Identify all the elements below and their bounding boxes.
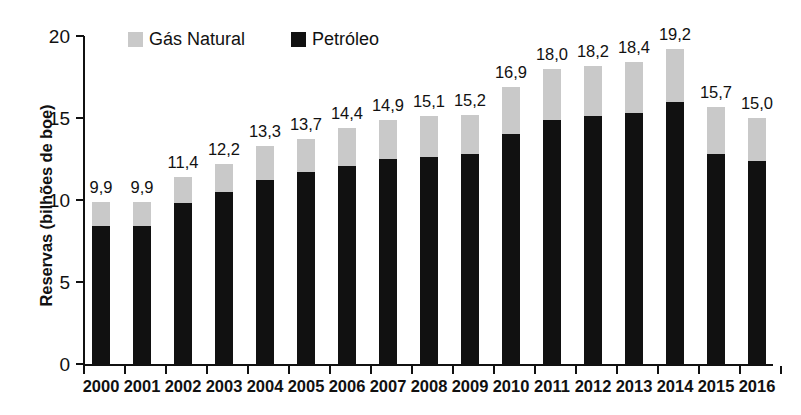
bar-segment-petroleo[interactable] [215,192,233,364]
y-tick-mark [76,35,84,37]
x-tick-mark [534,366,536,374]
bar-group[interactable]: 14,9 [379,0,397,415]
x-tick-mark [616,366,618,374]
bar-value-label: 19,2 [647,26,703,43]
bar-segment-gas-natural[interactable] [502,87,520,135]
bar-segment-petroleo[interactable] [174,203,192,364]
bar-group[interactable]: 9,9 [92,0,110,415]
x-tick-mark [124,366,126,374]
bar-group[interactable]: 14,4 [338,0,356,415]
bar-segment-petroleo[interactable] [92,226,110,364]
x-tick-mark [698,366,700,374]
x-tick-mark [452,366,454,374]
y-tick-label: 20 [30,27,70,46]
bar-group[interactable]: 13,3 [256,0,274,415]
bar-segment-petroleo[interactable] [420,157,438,364]
bar-group[interactable]: 18,2 [584,0,602,415]
bar-segment-gas-natural[interactable] [707,107,725,155]
y-tick-mark [76,199,84,201]
bar-segment-gas-natural[interactable] [584,66,602,117]
bar-segment-petroleo[interactable] [543,120,561,364]
x-tick-mark [657,366,659,374]
bar-segment-petroleo[interactable] [297,172,315,364]
bar-segment-petroleo[interactable] [584,116,602,364]
legend-label-petroleo: Petróleo [312,30,379,48]
x-tick-label: 2016 [730,378,784,395]
x-tick-mark [165,366,167,374]
legend-swatch-gas-icon [128,32,143,47]
bar-segment-gas-natural[interactable] [543,69,561,120]
bar-segment-gas-natural[interactable] [338,128,356,166]
bar-group[interactable]: 16,9 [502,0,520,415]
bar-group[interactable]: 18,4 [625,0,643,415]
x-tick-mark [206,366,208,374]
y-tick-label: 0 [30,355,70,374]
bar-segment-petroleo[interactable] [666,102,684,364]
bar-value-label: 12,2 [196,141,252,158]
bar-group[interactable]: 18,0 [543,0,561,415]
x-tick-mark [493,366,495,374]
bar-group[interactable]: 15,0 [748,0,766,415]
y-tick-label: 5 [30,273,70,292]
bar-segment-gas-natural[interactable] [174,177,192,203]
bar-segment-gas-natural[interactable] [215,164,233,192]
bar-group[interactable]: 15,2 [461,0,479,415]
bar-segment-gas-natural[interactable] [92,202,110,227]
bar-segment-gas-natural[interactable] [379,120,397,159]
x-tick-mark [575,366,577,374]
y-tick-mark [76,281,84,283]
bar-segment-petroleo[interactable] [256,180,274,364]
bar-value-label: 9,9 [114,179,170,196]
bar-value-label: 15,2 [442,92,498,109]
bar-segment-petroleo[interactable] [707,154,725,364]
bar-segment-gas-natural[interactable] [133,202,151,227]
legend-item-petroleo[interactable]: Petróleo [291,30,379,48]
bar-segment-gas-natural[interactable] [748,118,766,161]
bar-group[interactable]: 19,2 [666,0,684,415]
x-tick-mark [370,366,372,374]
legend-item-gas-natural[interactable]: Gás Natural [128,30,245,48]
bar-segment-gas-natural[interactable] [625,62,643,113]
bar-group[interactable]: 12,2 [215,0,233,415]
bar-segment-gas-natural[interactable] [256,146,274,180]
x-tick-mark [411,366,413,374]
bar-segment-petroleo[interactable] [133,226,151,364]
bar-segment-gas-natural[interactable] [461,115,479,154]
y-tick-label: 15 [30,109,70,128]
legend-swatch-oil-icon [291,32,306,47]
bar-group[interactable]: 15,7 [707,0,725,415]
bar-group[interactable]: 11,4 [174,0,192,415]
x-tick-mark [739,366,741,374]
bar-segment-petroleo[interactable] [461,154,479,364]
bar-group[interactable]: 15,1 [420,0,438,415]
bar-segment-gas-natural[interactable] [666,49,684,101]
bar-segment-petroleo[interactable] [748,161,766,364]
x-tick-mark [329,366,331,374]
bar-segment-gas-natural[interactable] [420,116,438,157]
bar-segment-petroleo[interactable] [338,166,356,364]
x-tick-mark [83,366,85,374]
bar-value-label: 16,9 [483,64,539,81]
legend: Gás Natural Petróleo [128,30,379,48]
bar-segment-petroleo[interactable] [502,134,520,364]
bar-group[interactable]: 13,7 [297,0,315,415]
bar-segment-petroleo[interactable] [625,113,643,364]
y-tick-label: 10 [30,191,70,210]
legend-label-gas-natural: Gás Natural [149,30,245,48]
bar-segment-petroleo[interactable] [379,159,397,364]
y-tick-mark [76,363,84,365]
bar-value-label: 15,0 [729,95,785,112]
bar-segment-gas-natural[interactable] [297,139,315,172]
x-tick-mark [288,366,290,374]
x-tick-mark [247,366,249,374]
y-tick-mark [76,117,84,119]
x-tick-mark [780,366,782,374]
stacked-bar-chart: Reservas (bilhões de boe) 05101520 9,99,… [0,0,801,415]
bar-group[interactable]: 9,9 [133,0,151,415]
